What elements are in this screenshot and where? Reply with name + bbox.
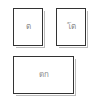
box-2[interactable]: โต: [56, 8, 86, 46]
box-3-label: ดก: [39, 71, 49, 79]
box-3[interactable]: ดก: [13, 56, 74, 94]
box-1-label: ต: [26, 23, 31, 31]
box-1[interactable]: ต: [13, 8, 43, 46]
box-2-label: โต: [67, 23, 76, 31]
